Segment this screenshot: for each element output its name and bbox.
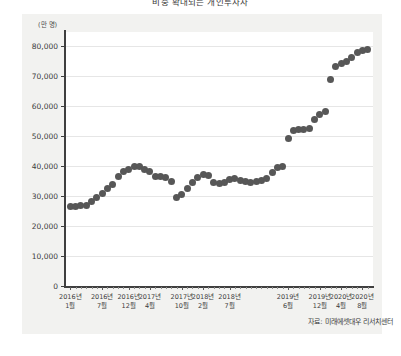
plot-area xyxy=(65,32,373,286)
x-axis-minor-tick xyxy=(214,287,215,289)
x-axis-minor-tick xyxy=(240,287,241,289)
x-axis-minor-tick xyxy=(299,287,300,289)
y-axis-tick-mark xyxy=(61,106,64,107)
chart-title: 비중 확대되는 개인투자자 xyxy=(0,0,401,7)
x-axis-minor-tick xyxy=(272,287,273,289)
x-axis-tick-year: 2020년 xyxy=(339,293,385,302)
x-axis-minor-tick xyxy=(155,287,156,289)
data-point xyxy=(327,76,334,83)
x-axis-minor-tick xyxy=(304,287,305,289)
x-axis-minor-tick xyxy=(261,287,262,289)
data-point xyxy=(306,125,313,132)
y-axis-tick-mark xyxy=(61,76,64,77)
y-axis-line xyxy=(64,30,66,288)
gridline xyxy=(65,196,373,197)
x-axis-tick-label: 2020년8월 xyxy=(339,293,385,310)
x-axis-minor-tick xyxy=(277,287,278,289)
gridline xyxy=(65,256,373,257)
x-axis-minor-tick xyxy=(352,287,353,289)
source-note: 자료: 미래에셋대우 리서치센터 xyxy=(308,316,393,326)
x-axis-minor-tick xyxy=(187,287,188,289)
x-axis-minor-tick xyxy=(161,287,162,289)
x-axis-minor-tick xyxy=(177,287,178,289)
x-axis-minor-tick xyxy=(171,287,172,289)
x-axis-tick-mark xyxy=(150,287,151,290)
y-axis-tick-label: 20,000 xyxy=(12,222,58,231)
y-axis-tick-label: 40,000 xyxy=(12,162,58,171)
x-axis-minor-tick xyxy=(134,287,135,289)
x-axis-minor-tick xyxy=(246,287,247,289)
x-axis-minor-tick xyxy=(113,287,114,289)
x-axis-minor-tick xyxy=(166,287,167,289)
x-axis-minor-tick xyxy=(123,287,124,289)
x-axis-minor-tick xyxy=(219,287,220,289)
gridline xyxy=(65,166,373,167)
data-point xyxy=(205,172,212,179)
x-axis-minor-tick xyxy=(368,287,369,289)
x-axis-minor-tick xyxy=(92,287,93,289)
y-axis-tick-label: 10,000 xyxy=(12,252,58,261)
x-axis-tick-mark xyxy=(320,287,321,290)
y-axis-tick-mark xyxy=(61,226,64,227)
x-axis-minor-tick xyxy=(325,287,326,289)
y-axis-tick-mark xyxy=(61,166,64,167)
chart-figure: 비중 확대되는 개인투자자 (만 명) 자료: 미래에셋대우 리서치센터 010… xyxy=(0,0,401,356)
y-axis-tick-mark xyxy=(61,46,64,47)
x-axis-tick-mark xyxy=(102,287,103,290)
data-point xyxy=(279,163,286,170)
x-axis-minor-tick xyxy=(81,287,82,289)
x-axis-minor-tick xyxy=(293,287,294,289)
x-axis-tick-year: 2018년 xyxy=(207,293,253,302)
x-axis-minor-tick xyxy=(192,287,193,289)
x-axis-tick-label: 2018년7월 xyxy=(207,293,253,310)
data-point xyxy=(109,181,116,188)
y-axis-tick-mark xyxy=(61,286,64,287)
data-point xyxy=(285,135,292,142)
y-axis-tick-label: 70,000 xyxy=(12,72,58,81)
data-point xyxy=(263,175,270,182)
x-axis-minor-tick xyxy=(357,287,358,289)
x-axis-minor-tick xyxy=(267,287,268,289)
data-point xyxy=(364,46,371,53)
x-axis-tick-mark xyxy=(70,287,71,290)
x-axis-tick-mark xyxy=(362,287,363,290)
x-axis-tick-mark xyxy=(203,287,204,290)
x-axis-tick-mark xyxy=(182,287,183,290)
y-axis-tick-label: 30,000 xyxy=(12,192,58,201)
x-axis-minor-tick xyxy=(283,287,284,289)
y-axis-tick-label: 60,000 xyxy=(12,102,58,111)
data-point xyxy=(322,108,329,115)
x-axis-minor-tick xyxy=(315,287,316,289)
x-axis-tick-mark xyxy=(129,287,130,290)
y-axis-tick-mark xyxy=(61,136,64,137)
x-axis-minor-tick xyxy=(208,287,209,289)
x-axis-tick-mark xyxy=(288,287,289,290)
x-axis-minor-tick xyxy=(346,287,347,289)
y-axis-tick-label: 50,000 xyxy=(12,132,58,141)
gridline xyxy=(65,106,373,107)
x-axis-minor-tick xyxy=(331,287,332,289)
data-point xyxy=(184,185,191,192)
x-axis-minor-tick xyxy=(256,287,257,289)
x-axis-minor-tick xyxy=(251,287,252,289)
y-axis-tick-label: 0 xyxy=(12,282,58,291)
y-axis-tick-mark xyxy=(61,196,64,197)
x-axis-minor-tick xyxy=(309,287,310,289)
gridline xyxy=(65,46,373,47)
y-axis-tick-label: 80,000 xyxy=(12,42,58,51)
x-axis-minor-tick xyxy=(139,287,140,289)
chart-title-strip: 비중 확대되는 개인투자자 xyxy=(0,0,401,13)
x-axis-tick-mark xyxy=(341,287,342,290)
x-axis-minor-tick xyxy=(107,287,108,289)
x-axis-minor-tick xyxy=(86,287,87,289)
y-axis-unit-label: (만 명) xyxy=(38,19,57,29)
gridline xyxy=(65,136,373,137)
y-axis-tick-mark xyxy=(61,256,64,257)
x-axis-tick-month: 8월 xyxy=(339,302,385,311)
gridline xyxy=(65,226,373,227)
x-axis-minor-tick xyxy=(235,287,236,289)
x-axis-tick-mark xyxy=(230,287,231,290)
x-axis-minor-tick xyxy=(76,287,77,289)
data-point xyxy=(168,178,175,185)
x-axis-minor-tick xyxy=(224,287,225,289)
